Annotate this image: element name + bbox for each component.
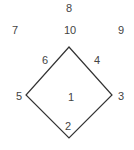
position-label-3: 3	[118, 91, 124, 102]
position-label-5: 5	[16, 91, 22, 102]
position-label-4: 4	[94, 55, 100, 66]
position-label-6: 6	[42, 55, 48, 66]
position-label-1: 1	[68, 92, 74, 103]
position-label-2: 2	[65, 121, 71, 132]
position-label-8: 8	[66, 3, 72, 14]
position-label-9: 9	[118, 25, 124, 36]
position-label-7: 7	[12, 25, 18, 36]
position-label-10: 10	[64, 25, 76, 36]
